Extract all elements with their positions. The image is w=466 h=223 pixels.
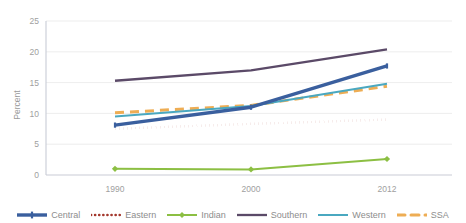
legend-swatch-western-icon (318, 210, 348, 220)
y-tick-label: 15 (30, 78, 40, 88)
series-line-western (115, 84, 387, 117)
legend-label: Southern (271, 211, 308, 220)
legend-label: SSA (431, 211, 449, 220)
legend-item-western[interactable]: Western (318, 210, 385, 220)
series-line-southern (115, 49, 387, 80)
legend-label: Indian (201, 211, 226, 220)
y-tick-label: 10 (30, 109, 40, 119)
data-point-marker (384, 156, 390, 162)
x-tick-label: 2000 (242, 184, 261, 194)
legend-item-indian[interactable]: Indian (167, 210, 226, 220)
legend-swatch-eastern-icon (91, 210, 121, 220)
data-series (112, 49, 390, 172)
y-axis-title: Percent (12, 90, 22, 120)
legend-item-southern[interactable]: Southern (237, 210, 308, 220)
legend-swatch-indian-icon (167, 210, 197, 220)
chart-legend: CentralEasternIndianSouthernWesternSSA (0, 210, 466, 220)
legend-label: Central (51, 211, 80, 220)
legend-swatch-central-icon (17, 210, 47, 220)
y-tick-label: 5 (34, 139, 39, 149)
y-tick-label: 0 (34, 170, 39, 180)
y-axis-tick-labels: 0510152025 (30, 16, 40, 180)
x-axis-tick-labels: 199020002012 (106, 184, 397, 194)
legend-item-central[interactable]: Central (17, 210, 80, 220)
gridlines (46, 21, 452, 144)
legend-label: Eastern (125, 211, 156, 220)
y-tick-label: 20 (30, 47, 40, 57)
line-chart: 0510152025 199020002012 Percent CentralE… (0, 0, 466, 223)
legend-item-ssa[interactable]: SSA (397, 210, 449, 220)
legend-label: Western (352, 211, 385, 220)
legend-swatch-southern-icon (237, 210, 267, 220)
legend-swatch-ssa-icon (397, 210, 427, 220)
data-point-marker (248, 166, 254, 172)
chart-plot-area: 0510152025 199020002012 Percent (0, 0, 466, 223)
legend-item-eastern[interactable]: Eastern (91, 210, 156, 220)
y-tick-label: 25 (30, 16, 40, 26)
data-point-marker (112, 166, 118, 172)
x-tick-label: 2012 (378, 184, 397, 194)
axis-lines (46, 21, 452, 175)
x-tick-label: 1990 (106, 184, 125, 194)
series-line-central (115, 66, 387, 125)
